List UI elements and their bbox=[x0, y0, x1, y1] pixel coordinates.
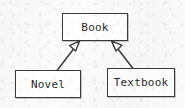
generalization-line-textbook bbox=[116, 47, 133, 69]
generalization-novel-to-book[interactable] bbox=[57, 41, 80, 70]
hollow-triangle-arrowhead-novel bbox=[70, 41, 80, 51]
hollow-triangle-arrowhead-textbook bbox=[112, 41, 122, 51]
uml-class-name-book: Book bbox=[81, 22, 108, 33]
uml-class-diagram: Book Novel Textbook bbox=[0, 0, 185, 108]
generalization-line-novel bbox=[57, 47, 76, 71]
uml-class-box-textbook[interactable]: Textbook bbox=[107, 68, 175, 97]
uml-class-name-textbook: Textbook bbox=[114, 77, 169, 88]
uml-class-box-book[interactable]: Book bbox=[62, 13, 128, 41]
uml-class-box-novel[interactable]: Novel bbox=[15, 70, 81, 98]
generalization-textbook-to-book[interactable] bbox=[112, 41, 133, 68]
uml-class-name-novel: Novel bbox=[31, 79, 65, 90]
